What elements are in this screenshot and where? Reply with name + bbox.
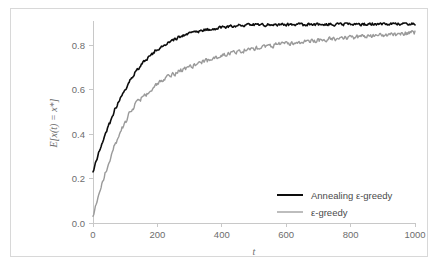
axis-ticks-layer: 020040060080010000.00.20.40.60.8 <box>72 40 426 240</box>
y-tick-label: 0.6 <box>72 84 85 95</box>
x-tick-label: 1000 <box>404 229 425 240</box>
x-tick-label: 600 <box>278 229 294 240</box>
x-tick-label: 0 <box>90 229 95 240</box>
line-chart: 020040060080010000.00.20.40.60.8 tE[x(t)… <box>11 9 427 256</box>
series-layer <box>93 23 415 216</box>
y-tick-label: 0.2 <box>72 173 85 184</box>
figure-root: 020040060080010000.00.20.40.60.8 tE[x(t)… <box>0 0 440 269</box>
y-tick-label: 0.4 <box>72 129 85 140</box>
y-tick-label: 0.0 <box>72 218 85 229</box>
x-axis-title: t <box>253 246 256 256</box>
legend-label-2: ε-greedy <box>311 207 348 218</box>
chart-legend: Annealing ε-greedyε-greedy <box>277 190 393 218</box>
series-line-2 <box>93 31 415 217</box>
x-tick-label: 400 <box>214 229 230 240</box>
y-tick-label: 0.8 <box>72 40 85 51</box>
y-axis-title: E[x(t) = x*] <box>48 98 60 148</box>
figure-border: 020040060080010000.00.20.40.60.8 tE[x(t)… <box>10 8 428 257</box>
x-tick-label: 200 <box>149 229 165 240</box>
legend-label-1: Annealing ε-greedy <box>311 190 393 201</box>
x-tick-label: 800 <box>343 229 359 240</box>
